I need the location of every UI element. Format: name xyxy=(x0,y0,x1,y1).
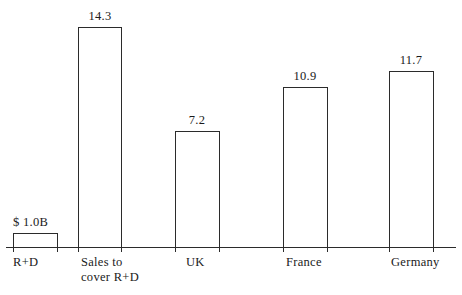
axis-tick xyxy=(219,247,220,252)
axis-tick xyxy=(433,247,434,252)
axis-tick xyxy=(389,247,390,252)
bar-category-label: UK xyxy=(186,255,246,270)
axis-tick xyxy=(327,247,328,252)
bar-category-label: R+D xyxy=(13,255,83,270)
bar-chart: $ 1.0B R+D 14.3 Sales to cover R+D 7.2 U… xyxy=(0,0,462,295)
bar-category-label: Sales to cover R+D xyxy=(81,255,166,285)
bar-value-label: 10.9 xyxy=(275,69,335,83)
axis-tick xyxy=(78,247,79,252)
axis-tick xyxy=(57,247,58,252)
axis-tick xyxy=(283,247,284,252)
bar-uk xyxy=(175,131,220,248)
axis-tick xyxy=(121,247,122,252)
bar-value-label: 14.3 xyxy=(70,9,130,23)
bar-france xyxy=(283,87,328,248)
bar-germany xyxy=(389,71,434,248)
bar-value-label: 11.7 xyxy=(381,53,441,67)
bar-sales-to-cover-r-d xyxy=(78,27,122,248)
axis-tick xyxy=(175,247,176,252)
plot-area: $ 1.0B R+D 14.3 Sales to cover R+D 7.2 U… xyxy=(0,0,462,295)
bar-value-label: 7.2 xyxy=(167,113,227,127)
bar-r-d xyxy=(13,233,58,248)
axis-tick xyxy=(13,247,14,252)
bar-category-label: Germany xyxy=(391,255,462,270)
bar-category-label: France xyxy=(286,255,356,270)
